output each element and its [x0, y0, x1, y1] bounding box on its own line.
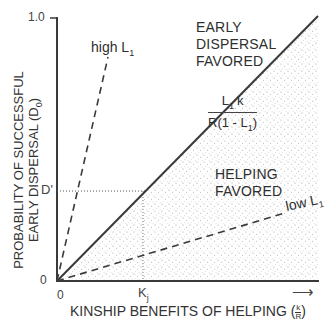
high-l1-sub: 1 [129, 48, 134, 58]
x-title-close: ) [301, 303, 306, 319]
early-label-line3: FAVORED [196, 53, 276, 70]
formula-num-k: k [237, 93, 244, 108]
y-tick-0: 0 [40, 273, 47, 287]
threshold-formula: L1k R(1 - L1) [208, 93, 257, 132]
x-axis-title: KINSHIP BENEFITS OF HELPING (kR) [70, 303, 306, 321]
y-title-line2-close: ) [26, 98, 41, 102]
formula-num-sub: 1 [229, 101, 234, 111]
early-dispersal-favored-label: EARLY DISPERSAL FAVORED [196, 19, 276, 70]
x-tick-kj: Kj [138, 285, 149, 303]
y-title-line2-main: EARLY DISPERSAL (D [26, 107, 41, 242]
y-axis-title-line1: PROBABILITY OF SUCCESSFUL [11, 71, 26, 269]
high-l1-label: high L1 [91, 39, 134, 58]
y-title-line2-sub: 0 [34, 102, 44, 107]
x-axis-arrow-icon: ⟶ [292, 283, 314, 301]
x-title-main: KINSHIP BENEFITS OF HELPING ( [70, 303, 295, 319]
formula-numerator: L1k [208, 93, 257, 113]
y-tick-1: 1.0 [28, 10, 45, 24]
x-tick-0: 0 [57, 288, 64, 302]
early-label-line1: EARLY [196, 19, 276, 36]
kj-main: K [138, 285, 147, 300]
helping-label-line1: HELPING [215, 166, 282, 183]
y-axis-title-line2: EARLY DISPERSAL (D0) [26, 71, 47, 269]
formula-den-a: R(1 - L [208, 115, 248, 130]
y-axis-title: PROBABILITY OF SUCCESSFUL EARLY DISPERSA… [11, 71, 47, 269]
helping-label-line2: FAVORED [215, 183, 282, 200]
high-l1-main: high L [91, 39, 129, 55]
early-label-line2: DISPERSAL [196, 36, 276, 53]
formula-denominator: R(1 - L1) [208, 113, 257, 133]
kj-sub: j [147, 293, 149, 303]
helping-favored-label: HELPING FAVORED [215, 166, 282, 200]
diagram-canvas [0, 0, 328, 326]
formula-den-b: ) [253, 115, 257, 130]
formula-num-l: L [222, 93, 229, 108]
